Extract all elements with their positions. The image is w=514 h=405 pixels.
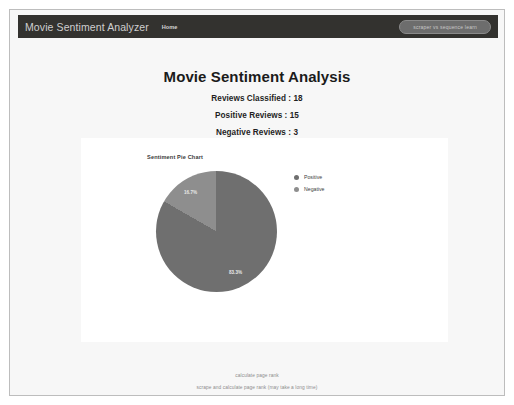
legend-item-negative[interactable]: Negative [294,186,324,192]
pie-chart-card: Sentiment Pie Chart 83.3% 16.7% Positive… [81,138,448,342]
chart-title: Sentiment Pie Chart [147,154,203,160]
footer-calculate-page-rank[interactable]: calculate page rank [10,373,504,378]
stat-positive-reviews: Positive Reviews : 15 [10,111,504,120]
navbar-brand[interactable]: Movie Sentiment Analyzer [25,21,149,33]
legend-label-negative: Negative [304,186,324,192]
summary-section: Movie Sentiment Analysis Reviews Classif… [10,68,504,145]
pie-slice-label-negative: 16.7% [184,190,197,195]
browser-page-frame: Movie Sentiment Analyzer Home scraper vs… [9,9,505,396]
legend-dot-positive-icon [294,175,299,180]
navbar: Movie Sentiment Analyzer Home scraper vs… [18,15,498,38]
chart-legend: Positive Negative [294,174,324,198]
scraper-action-button[interactable]: scraper vs sequence learn [399,20,491,34]
stat-reviews-classified: Reviews Classified : 18 [10,94,504,103]
legend-dot-negative-icon [294,187,299,192]
footer-scrape-and-calculate[interactable]: scrape and calculate page rank (may take… [10,385,504,390]
pie-chart[interactable]: 83.3% 16.7% [156,171,277,292]
pie-graphic [156,171,277,292]
footer: calculate page rank scrape and calculate… [10,373,504,396]
legend-label-positive: Positive [304,174,322,180]
page-title: Movie Sentiment Analysis [10,68,504,85]
stat-negative-reviews: Negative Reviews : 3 [10,128,504,137]
legend-item-positive[interactable]: Positive [294,174,324,180]
pie-slice-label-positive: 83.3% [229,270,242,275]
nav-link-home[interactable]: Home [162,24,178,30]
